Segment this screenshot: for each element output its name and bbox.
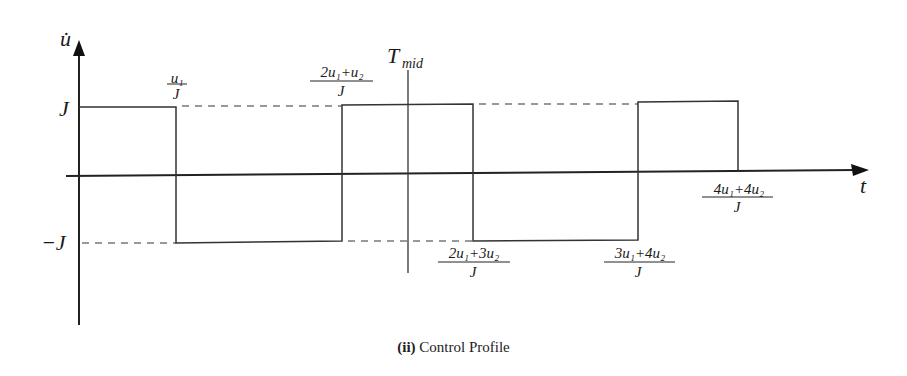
svg-text:J: J xyxy=(173,86,181,102)
svg-text:J: J xyxy=(635,264,643,280)
label-u1-over-j: u₁ J xyxy=(167,70,187,102)
label-4u1-plus-4u2-over-j: 4u₁+4u₂ J xyxy=(702,181,773,215)
y-tick-pos-j: J xyxy=(59,96,70,121)
t-axis xyxy=(66,164,869,176)
y-tick-neg-j: −J xyxy=(41,230,67,255)
caption-title: Control Profile xyxy=(419,339,509,355)
svg-text:3u₁+4u₂: 3u₁+4u₂ xyxy=(614,245,666,261)
svg-text:J: J xyxy=(734,199,742,215)
x-axis-label: t xyxy=(860,173,867,198)
label-3u1-plus-4u2-over-j: 3u₁+4u₂ J xyxy=(604,245,675,280)
y-axis-label: u̇ xyxy=(60,26,71,51)
label-2u1-plus-u2-over-j: 2u₁+u₂ J xyxy=(310,64,373,99)
svg-text:2u₁+3u₂: 2u₁+3u₂ xyxy=(449,245,500,261)
svg-text:J: J xyxy=(338,83,346,99)
t-mid-label: T mid xyxy=(387,43,424,71)
svg-text:J: J xyxy=(470,264,478,280)
svg-text:mid: mid xyxy=(402,56,424,71)
svg-text:4u₁+4u₂: 4u₁+4u₂ xyxy=(714,181,765,197)
u-dot-axis xyxy=(73,40,85,325)
figure-caption: (ii) Control Profile xyxy=(0,339,907,356)
u-dot-axis-arrow-icon xyxy=(73,40,85,56)
caption-prefix: (ii) xyxy=(397,339,415,355)
svg-text:T: T xyxy=(387,43,401,68)
control-profile-diagram: u̇ t J −J T mid u₁ J 2u₁+u₂ J 2u₁+3u₂ J … xyxy=(0,0,907,376)
label-2u1-plus-3u2-over-j: 2u₁+3u₂ J xyxy=(438,245,510,280)
svg-text:2u₁+u₂: 2u₁+u₂ xyxy=(320,64,363,80)
